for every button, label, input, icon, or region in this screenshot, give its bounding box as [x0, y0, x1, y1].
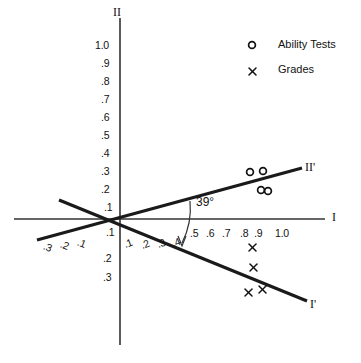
- scatter-plot-figure: II I II' I' 39° Ability Tests Grades 1.0…: [0, 0, 361, 363]
- axis-label-rotated-I-prime: I': [310, 298, 316, 310]
- data-point-circle: [260, 168, 267, 175]
- y-tick-label: .9: [101, 58, 109, 69]
- data-point-x: [249, 244, 256, 251]
- y-tick-label-negative: .1: [106, 227, 114, 238]
- angle-annotation-label: 39°: [196, 196, 214, 208]
- axis-label-horizontal-I: I: [332, 211, 336, 223]
- legend-item-ability-tests-label: Ability Tests: [278, 39, 336, 50]
- x-tick-label: .9: [254, 228, 262, 239]
- y-tick-label: .2: [101, 184, 109, 195]
- rotated-axis-I-prime-line: [59, 200, 307, 301]
- y-tick-label: .4: [101, 148, 109, 159]
- legend-marker-x: [249, 68, 256, 75]
- x-tick-label: .8: [240, 228, 248, 239]
- x-tick-label: .6: [206, 228, 214, 239]
- series-grades: [245, 244, 266, 296]
- y-tick-label: .8: [101, 76, 109, 87]
- legend-item-grades-label: Grades: [278, 64, 314, 75]
- axis-label-vertical-II: II: [113, 6, 121, 18]
- x-tick-label: .5: [190, 228, 198, 239]
- data-point-circle: [247, 169, 254, 176]
- plot-canvas: [0, 0, 361, 363]
- y-tick-label: 1.0: [95, 40, 109, 51]
- x-tick-label: .7: [222, 228, 230, 239]
- y-tick-label: .1: [104, 202, 112, 213]
- data-point-circle: [258, 187, 265, 194]
- x-tick-label: 1.0: [275, 228, 289, 239]
- y-tick-label-negative: .3: [103, 272, 111, 283]
- legend-marker-circle: [249, 42, 256, 49]
- data-point-x: [250, 264, 257, 271]
- data-point-circle: [265, 188, 272, 195]
- data-point-x: [245, 289, 252, 296]
- y-tick-label: .3: [101, 166, 109, 177]
- y-tick-label-negative: .2: [103, 253, 111, 264]
- axis-label-rotated-II-prime: II': [305, 161, 315, 173]
- data-point-x: [259, 286, 266, 293]
- y-tick-label: .5: [101, 130, 109, 141]
- y-tick-label: .7: [101, 94, 109, 105]
- y-tick-label: .6: [101, 112, 109, 123]
